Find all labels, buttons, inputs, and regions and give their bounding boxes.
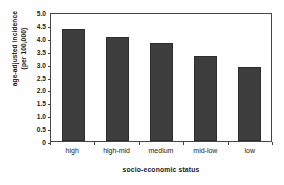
- y-axis-tick-label: 1.5: [24, 100, 46, 107]
- x-axis-tick-label-medium: medium: [139, 147, 183, 154]
- plot-area: [50, 13, 272, 142]
- y-axis-tick-label: 0: [24, 139, 46, 146]
- y-axis-tick-label: 2.0: [24, 87, 46, 94]
- y-axis-tick-label: 0.5: [24, 126, 46, 133]
- x-axis-tick-label-low: low: [228, 147, 272, 154]
- x-axis-tick-labels: highhigh-midmediummid-lowlow: [50, 147, 272, 154]
- bar-series: [51, 14, 271, 141]
- x-axis-tick-mark: [272, 142, 273, 145]
- x-axis-tick-mark: [50, 142, 51, 145]
- y-axis-title-line1: age-adjusted incidence: [11, 11, 18, 86]
- bar-high-mid[interactable]: [106, 37, 129, 141]
- x-axis-tick-marks: [50, 142, 272, 146]
- y-axis-tick-label: 4.0: [24, 35, 46, 42]
- x-axis-title: socio-economic status: [50, 166, 272, 173]
- y-axis-tick-label: 2.5: [24, 74, 46, 81]
- bar-medium[interactable]: [150, 43, 173, 141]
- bar-low[interactable]: [238, 67, 261, 141]
- y-axis-tick-label: 1.0: [24, 113, 46, 120]
- chart-title: socio-economic status: [0, 0, 284, 2]
- y-axis-tick-labels: 5.04.54.03.53.02.52.01.51.00.50: [24, 13, 46, 142]
- x-axis-tick-mark: [139, 142, 140, 145]
- x-axis-tick-label-high-mid: high-mid: [95, 147, 139, 154]
- x-axis-tick-label-high: high: [50, 147, 94, 154]
- y-axis-tick-label: 3.5: [24, 48, 46, 55]
- y-axis-tick-label: 5.0: [24, 10, 46, 17]
- bar-chart-figure: socio-economic status age-adjusted incid…: [0, 0, 284, 185]
- bar-high[interactable]: [62, 29, 85, 141]
- x-axis-tick-mark: [183, 142, 184, 145]
- y-axis-tick-label: 4.5: [24, 22, 46, 29]
- x-axis-tick-mark: [94, 142, 95, 145]
- bar-mid-low[interactable]: [194, 56, 217, 141]
- x-axis-tick-mark: [228, 142, 229, 145]
- x-axis-tick-label-mid-low: mid-low: [183, 147, 227, 154]
- y-axis-tick-label: 3.0: [24, 61, 46, 68]
